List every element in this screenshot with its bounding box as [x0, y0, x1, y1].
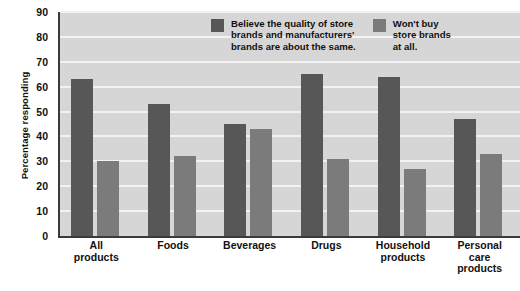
- x-tick-label: Drugs: [288, 240, 365, 252]
- x-tick-label-line: Beverages: [223, 239, 276, 251]
- y-tick-label: 70: [36, 56, 48, 68]
- legend-item-wont-buy: Won't buy store brands at all.: [373, 18, 451, 52]
- x-tick-label-line: care: [469, 251, 491, 263]
- legend-swatch-icon-series-1: [211, 19, 224, 32]
- bar-series-2: [327, 159, 349, 236]
- x-axis-tick-labels: AllproductsFoodsBeveragesDrugsHouseholdp…: [58, 240, 518, 291]
- bar-series-1: [301, 74, 323, 236]
- bar-series-2: [404, 169, 426, 236]
- bar-group: [137, 12, 214, 236]
- legend-item-same-quality: Believe the quality of store brands and …: [211, 18, 356, 52]
- bar-series-2: [97, 161, 119, 236]
- x-tick-label: Allproducts: [58, 240, 135, 263]
- bar-group: [60, 12, 137, 236]
- x-tick-label-line: products: [381, 251, 426, 263]
- bar-series-2: [174, 156, 196, 236]
- x-tick-label: Foods: [135, 240, 212, 252]
- x-tick-label-line: Drugs: [311, 239, 341, 251]
- bar-series-2: [480, 154, 502, 236]
- bar-group: [443, 12, 520, 236]
- y-axis-tick-labels: 9080706050403020100: [0, 12, 54, 236]
- bar-series-2: [250, 129, 272, 236]
- y-tick-label: 80: [36, 31, 48, 43]
- x-tick-label: Householdproducts: [365, 240, 442, 263]
- bar-series-1: [454, 119, 476, 236]
- x-tick-label-line: products: [74, 251, 119, 263]
- y-tick-label: 60: [36, 81, 48, 93]
- legend-swatch-icon-series-2: [373, 19, 386, 32]
- y-tick-label: 30: [36, 155, 48, 167]
- x-tick-label-line: Foods: [157, 239, 189, 251]
- y-tick-label: 50: [36, 106, 48, 118]
- y-tick-label: 10: [36, 205, 48, 217]
- legend: Believe the quality of store brands and …: [211, 18, 451, 52]
- y-tick-label: 0: [42, 230, 48, 242]
- x-tick-label-line: All: [90, 239, 103, 251]
- y-tick-label: 20: [36, 180, 48, 192]
- x-tick-label-line: products: [457, 262, 502, 274]
- legend-label-series-1: Believe the quality of store brands and …: [231, 18, 356, 52]
- y-tick-label: 90: [36, 6, 48, 18]
- x-tick-label: Personalcareproducts: [441, 240, 518, 275]
- x-tick-label-line: Household: [376, 239, 430, 251]
- x-tick-label: Beverages: [211, 240, 288, 252]
- bar-series-1: [71, 79, 93, 236]
- x-tick-label-line: Personal: [457, 239, 501, 251]
- bar-series-1: [148, 104, 170, 236]
- bar-series-1: [224, 124, 246, 236]
- legend-label-series-2: Won't buy store brands at all.: [393, 18, 451, 52]
- y-tick-label: 40: [36, 130, 48, 142]
- bar-series-1: [378, 77, 400, 236]
